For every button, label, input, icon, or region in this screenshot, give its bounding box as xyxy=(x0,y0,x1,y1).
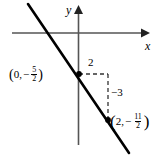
y-axis-arrowhead-icon xyxy=(74,5,83,14)
comma: , xyxy=(121,116,124,127)
slope-run-label: 2 xyxy=(88,57,94,68)
fraction-numerator: 11 xyxy=(133,113,143,121)
y-axis-label: y xyxy=(66,4,71,16)
close-paren: ) xyxy=(144,114,150,129)
fraction: 11 2 xyxy=(133,113,143,131)
comma: , xyxy=(19,69,22,80)
fraction: 5 2 xyxy=(31,66,37,84)
slope-rise-label: −3 xyxy=(111,87,123,98)
point-marker-y-intercept xyxy=(76,71,82,77)
point-label-y-intercept: ( 0 , − 5 2 ) xyxy=(9,66,43,84)
close-paren: ) xyxy=(38,69,43,82)
fraction-numerator: 5 xyxy=(31,66,37,74)
x-axis-arrowhead-icon xyxy=(141,29,150,38)
fraction-denominator: 2 xyxy=(135,121,141,130)
x-axis xyxy=(12,29,150,38)
fraction-denominator: 2 xyxy=(31,74,37,83)
minus-sign: − xyxy=(23,69,29,80)
graph-figure: y x 2 −3 ( 0 , − 5 2 ) ( 2 , − 11 2 ) xyxy=(0,0,167,159)
point-label-second-point: ( 2 , − 11 2 ) xyxy=(110,113,150,131)
minus-sign: − xyxy=(125,116,131,127)
x-axis-label: x xyxy=(145,40,150,52)
